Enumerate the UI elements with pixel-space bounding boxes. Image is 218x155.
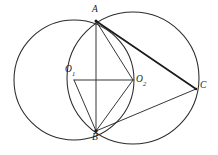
geometry-diagram: A B C O1 O2: [0, 0, 218, 155]
segment-o2-a: [96, 21, 133, 80]
label-point-a: A: [92, 5, 98, 15]
label-o1-base: O: [65, 64, 72, 74]
label-point-c: C: [200, 81, 206, 91]
geometry-canvas: [0, 0, 218, 155]
label-o2-base: O: [136, 74, 143, 84]
label-point-o2: O2: [136, 75, 146, 86]
label-o2-subscript: 2: [143, 80, 146, 87]
vertex-a-dot: [95, 20, 98, 23]
label-point-b: B: [92, 133, 98, 143]
vertex-c-dot: [195, 88, 198, 91]
label-point-o1: O1: [65, 65, 75, 76]
label-o1-subscript: 1: [72, 70, 75, 77]
